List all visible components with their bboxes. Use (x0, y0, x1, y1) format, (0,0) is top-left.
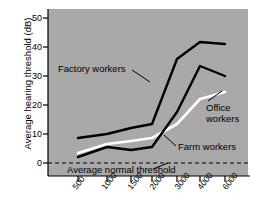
leader-line-normal-threshold (153, 163, 168, 169)
leader-line-factory-workers (132, 70, 150, 82)
series-line-factory-workers (78, 42, 225, 138)
y-axis-ticks (43, 18, 48, 163)
hearing-threshold-chart: Average hearing threshold (dB) 50 40 30 … (0, 0, 257, 211)
series-line-farm-workers (78, 66, 225, 157)
x-axis-ticks (78, 176, 225, 182)
leader-line-farm-workers (164, 135, 176, 146)
chart-graphics (0, 0, 257, 211)
